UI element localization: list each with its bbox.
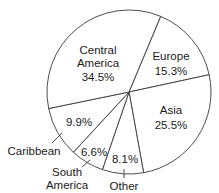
label-south-america-line2: America [46,179,89,191]
label-europe-name: Europe [152,50,189,62]
label-europe-value: 15.3% [155,65,188,77]
pie-slices [47,10,211,174]
label-south-america-value: 6.6% [81,146,107,158]
label-central-america-line1: Central [79,44,116,56]
label-central-america-line2: America [77,57,120,69]
label-other-name: Other [110,180,139,192]
label-caribbean-name: Caribbean [7,145,60,157]
label-asia-name: Asia [160,104,183,116]
pie-chart: Central America 34.5% Europe 15.3% Asia … [0,0,219,193]
label-caribbean-value: 9.9% [66,116,92,128]
label-south-america-line1: South [52,166,82,178]
label-other-value: 8.1% [112,153,138,165]
label-central-america-value: 34.5% [82,71,115,83]
label-asia-value: 25.5% [155,119,188,131]
